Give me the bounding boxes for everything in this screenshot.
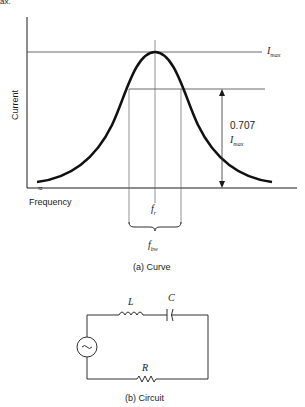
inductor-icon [119,312,143,315]
bandwidth-label: fbw [148,239,158,252]
capacitor-label: C [168,292,175,303]
inductor-label: L [128,296,134,307]
curve-caption: (a) Curve [133,262,171,272]
resonant-frequency-label: fr [151,203,156,216]
axis-break-icon: ≈ [38,184,43,193]
resonance-curve [37,52,272,182]
bandwidth-brace [129,222,181,231]
imax-label: Imax [267,45,280,58]
half-power-value: 0.707 [230,120,255,131]
circuit-caption: (b) Circuit [125,393,164,403]
x-axis-label: Frequency [29,197,72,207]
resistor-icon [137,376,156,382]
y-axis-label: Current [10,90,20,120]
resistor-label: R [142,362,148,373]
half-power-label: Imax [230,134,243,147]
